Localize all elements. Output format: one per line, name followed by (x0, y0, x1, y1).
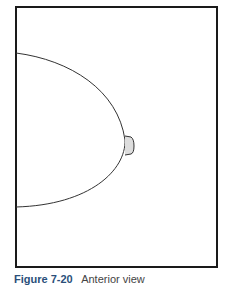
nipple-shape (125, 136, 134, 155)
caption-label: Figure 7-20 (14, 273, 73, 285)
figure-caption: Figure 7-20 Anterior view (14, 272, 145, 286)
breast-outline (16, 53, 125, 207)
caption-text: Anterior view (81, 273, 145, 285)
